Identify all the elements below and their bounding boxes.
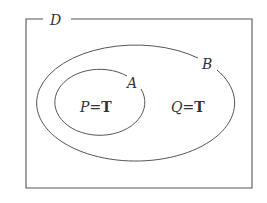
region-a-eq: = [89, 99, 101, 115]
region-b-val: T [194, 99, 205, 115]
region-a-val: T [101, 99, 112, 115]
universe-label: D [49, 12, 61, 28]
region-b-text: Q=T [171, 99, 205, 115]
region-a-text: P=T [79, 99, 112, 115]
universe-rectangle [26, 19, 252, 188]
region-b-eq: = [182, 99, 194, 115]
region-a-var: P [79, 99, 90, 115]
venn-diagram: D B A P=T Q=T [0, 0, 267, 203]
set-b-label: B [201, 56, 212, 72]
region-b-var: Q [171, 99, 183, 115]
set-a-label: A [125, 75, 137, 91]
